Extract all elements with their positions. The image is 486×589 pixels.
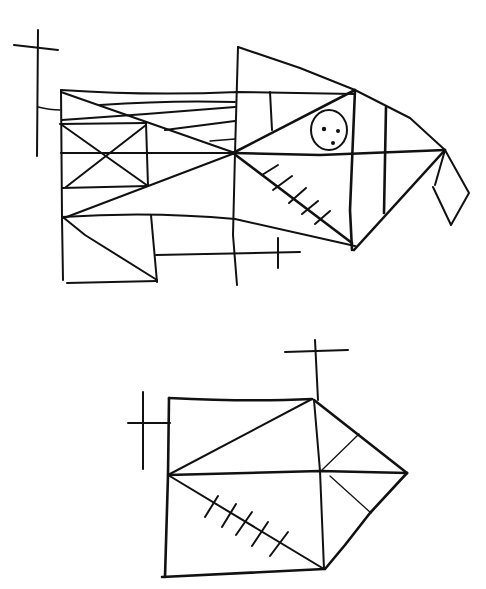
crosshair-top-vertical bbox=[315, 340, 318, 400]
upper-triangle-edge bbox=[238, 47, 355, 90]
xbox-diag-2 bbox=[66, 125, 146, 187]
xbox-top bbox=[60, 123, 146, 124]
head-top-edge bbox=[355, 90, 445, 150]
upper-figure bbox=[14, 30, 469, 285]
crosshair-top-horizontal bbox=[285, 350, 348, 352]
face-eye-right bbox=[336, 129, 340, 133]
block-lower-horizontal bbox=[62, 214, 355, 246]
xbox-bottom bbox=[62, 186, 148, 188]
square-right bbox=[314, 400, 324, 569]
head-inner-2 bbox=[330, 476, 371, 513]
block-line-3 bbox=[62, 107, 235, 120]
block-line-2 bbox=[100, 101, 235, 105]
fan-horizontal bbox=[233, 150, 445, 155]
head-upper bbox=[314, 400, 407, 473]
fan-upper bbox=[233, 90, 355, 153]
tail-flap bbox=[433, 150, 469, 225]
fan-lower bbox=[233, 153, 352, 243]
block-left-edge bbox=[61, 90, 63, 280]
face-eye-left bbox=[322, 127, 326, 131]
sketch-canvas bbox=[0, 0, 486, 589]
block-top-edge bbox=[61, 90, 355, 94]
block-line-4 bbox=[165, 121, 235, 130]
central-vertical bbox=[233, 47, 238, 285]
square-top bbox=[169, 398, 312, 400]
fan-vertical-2 bbox=[384, 107, 386, 213]
face-mouth bbox=[331, 141, 335, 145]
block-line-5 bbox=[210, 139, 235, 141]
square-left bbox=[165, 398, 169, 577]
upper-hatch-marks bbox=[262, 165, 330, 224]
face-circle bbox=[311, 110, 347, 150]
crosshair-connector bbox=[38, 107, 60, 110]
head-bottom-edge bbox=[354, 150, 445, 250]
head-inner-1 bbox=[322, 434, 359, 470]
crosshair-left-vertical bbox=[37, 30, 38, 156]
fan-vertical-1 bbox=[350, 90, 355, 250]
long-diagonal bbox=[64, 153, 235, 218]
lower-box-bottom bbox=[67, 281, 157, 283]
head-lower bbox=[325, 473, 407, 569]
diag-upper bbox=[168, 399, 312, 475]
xbox-right bbox=[146, 123, 148, 186]
square-bottom bbox=[162, 569, 324, 577]
lower-box-right bbox=[151, 215, 157, 282]
horizontal-mid bbox=[168, 471, 407, 475]
lower-figure bbox=[128, 340, 407, 577]
crosshair-left-horizontal bbox=[14, 45, 58, 50]
lower-box-diagonal bbox=[64, 218, 157, 280]
upper-triangle-inner bbox=[270, 92, 272, 130]
